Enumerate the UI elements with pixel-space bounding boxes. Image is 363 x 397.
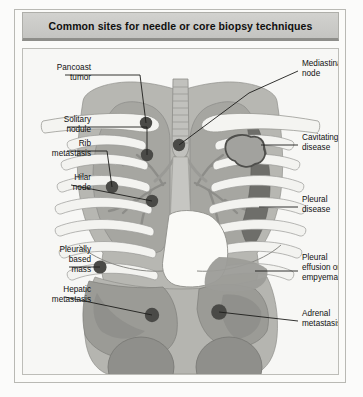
adrenal-metastasis-marker — [211, 304, 227, 320]
pleurally-based-mass-marker — [93, 260, 106, 273]
hilar-node-marker — [146, 195, 158, 207]
label-hilar-node: Hilar node — [29, 173, 91, 193]
label-adrenal-metastasis: Adrenal metastasis — [302, 309, 339, 329]
label-mediastinal-node: Mediastinal node — [302, 59, 339, 79]
illustration-panel: Pancoast tumor Solitary nodule Rib metas… — [22, 48, 339, 375]
label-pleural-effusion-or-empyema: Pleural effusion or empyema — [302, 253, 339, 284]
pancoast-tumor-marker — [140, 117, 152, 129]
mediastinal-node-marker — [173, 139, 185, 151]
label-pleurally-based-mass: Pleurally based mass — [23, 245, 91, 276]
label-hepatic-metastasis: Hepatic metastasis — [23, 285, 91, 305]
anatomy-illustration — [23, 49, 338, 374]
hepatic-metastasis-marker — [145, 308, 159, 322]
label-cavitating-disease: Cavitating disease — [302, 133, 339, 153]
label-solitary-nodule: Solitary nodule — [29, 115, 91, 135]
figure-title-bar: Common sites for needle or core biopsy t… — [22, 12, 339, 41]
label-rib-metastasis: Rib metastasis — [23, 139, 91, 159]
rib-metastasis-marker — [106, 181, 118, 193]
solitary-nodule-marker — [141, 149, 153, 161]
label-pleural-disease: Pleural disease — [302, 195, 339, 215]
figure-root: Common sites for needle or core biopsy t… — [0, 0, 363, 397]
page-title: Common sites for needle or core biopsy t… — [49, 20, 313, 32]
label-pancoast-tumor: Pancoast tumor — [29, 63, 91, 83]
